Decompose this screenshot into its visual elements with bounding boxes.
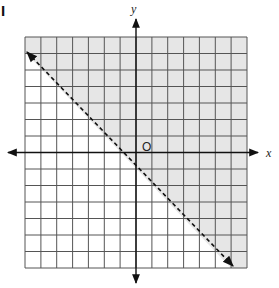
origin-label: O bbox=[142, 140, 151, 154]
y-axis-label: y bbox=[130, 2, 137, 16]
coordinate-plane: y x O bbox=[0, 0, 279, 288]
x-axis-label: x bbox=[265, 146, 272, 160]
